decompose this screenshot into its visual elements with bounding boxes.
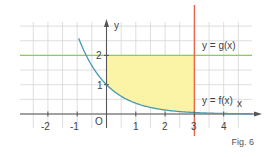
x-axis-label: x xyxy=(237,98,242,109)
y-axis-label: y xyxy=(114,20,119,31)
x-tick-label: 2 xyxy=(162,121,168,132)
y-tick-label: 1 xyxy=(97,80,103,91)
y-tick-label: 2 xyxy=(96,50,102,61)
label-f: y = f(x) xyxy=(202,95,233,106)
x-tick-label: 1 xyxy=(133,121,139,132)
figure-caption: Fig. 6 xyxy=(231,137,254,147)
x-tick-label: 3 xyxy=(191,121,197,132)
graph-figure: y x O -2 -1 1 2 3 4 1 2 y = g(x) y = f(x… xyxy=(0,0,266,157)
x-tick-label: 4 xyxy=(221,121,227,132)
x-tick-label: -2 xyxy=(41,121,50,132)
x-tick-label: -1 xyxy=(70,121,79,132)
origin-label: O xyxy=(95,116,103,127)
x-axis-arrow-icon xyxy=(254,112,262,117)
label-g: y = g(x) xyxy=(202,40,236,51)
shaded-area xyxy=(107,55,195,112)
y-axis-arrow-icon xyxy=(104,19,109,27)
